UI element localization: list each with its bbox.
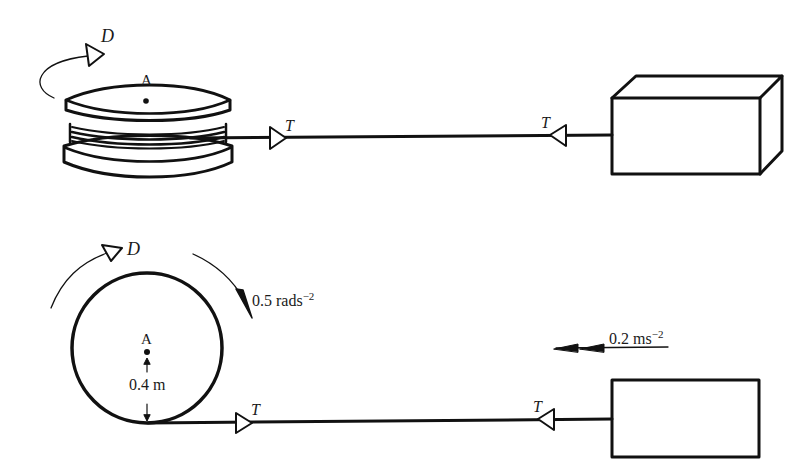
- drive-arrowhead-side-icon: [102, 245, 122, 261]
- linear-accel-label: 0.2 ms−2: [609, 329, 663, 347]
- radius-arrow-down-icon: [144, 415, 150, 421]
- linear-accel-arrowhead-1-icon: [554, 344, 578, 352]
- block-3d: [612, 76, 782, 174]
- angular-accel-label: 0.5 rads−2: [252, 291, 314, 309]
- tension-arrow-top-left-icon: [270, 127, 286, 149]
- center-label-side: A: [141, 332, 152, 347]
- drive-curve-top: [40, 56, 88, 98]
- radius-arrow-up-icon: [144, 358, 150, 364]
- tension-arrow-top-right-icon: [550, 125, 566, 146]
- radius-label: 0.4 m: [129, 377, 165, 393]
- mechanics-diagram: D A T T D 0.5 rads−2 A 0.4 m T T 0.2 ms−…: [0, 0, 810, 469]
- axis-point-a-top: [143, 98, 149, 104]
- drive-label-top: D: [101, 27, 114, 45]
- drive-arrowhead-top-icon: [86, 44, 104, 66]
- drum-3d: [40, 44, 232, 177]
- diagram-canvas: [0, 0, 810, 469]
- block-side: [612, 380, 759, 457]
- tension-label-top-right: T: [541, 115, 550, 131]
- drive-curve-side: [51, 252, 110, 308]
- rope-top: [190, 135, 612, 138]
- angular-accel-curve: [193, 254, 244, 300]
- tension-label-top-left: T: [285, 118, 294, 134]
- drive-label-side: D: [127, 240, 140, 258]
- drum-circle: [72, 273, 222, 423]
- tension-label-side-left: T: [251, 402, 260, 418]
- linear-accel-arrowhead-2-icon: [580, 344, 604, 352]
- axis-point-a-side: [144, 349, 150, 355]
- angular-accel-arrowhead-icon: [236, 289, 252, 318]
- tension-label-side-right: T: [533, 399, 542, 415]
- tension-arrow-side-left-icon: [236, 413, 252, 433]
- center-label-top: A: [141, 73, 152, 88]
